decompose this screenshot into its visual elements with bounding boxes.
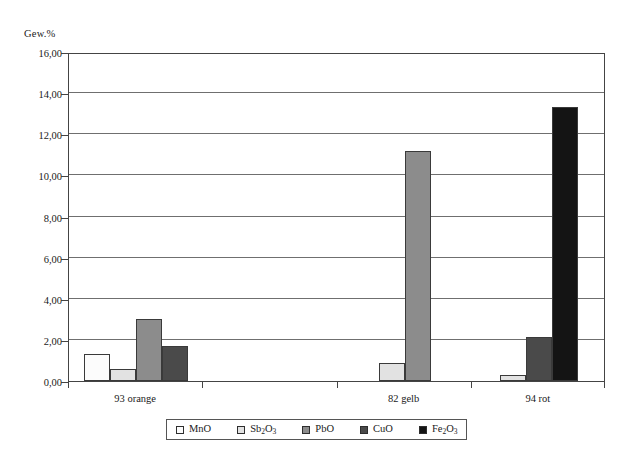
legend-label: CuO: [373, 424, 393, 435]
x-tick-mark: [202, 382, 203, 388]
y-tick-mark: [61, 53, 68, 54]
legend-item-mno: MnO: [176, 424, 211, 435]
y-tick-label: 0,00: [18, 377, 62, 388]
legend-item-cuo: CuO: [360, 424, 393, 435]
bar-sb2o3-2: [379, 363, 405, 382]
legend-item-fe2o3: Fe2O3: [419, 424, 458, 435]
x-tick-mark: [68, 382, 69, 388]
y-tick-mark: [61, 300, 68, 301]
x-category-label: 94 rot: [525, 393, 550, 404]
y-tick-label: 8,00: [18, 212, 62, 223]
bar-chart-figure: Gew.% 0,002,004,006,008,0010,0012,0014,0…: [0, 0, 623, 474]
x-category-label: 93 orange: [114, 393, 156, 404]
legend-label: PbO: [315, 424, 334, 435]
y-tick-mark: [61, 341, 68, 342]
y-tick-label: 2,00: [18, 335, 62, 346]
plot-area: [68, 53, 605, 382]
bar-cuo-0: [162, 346, 188, 381]
legend-swatch-icon: [237, 426, 245, 434]
legend-item-sb2o3: Sb2O3: [237, 424, 276, 435]
bar-pbo-0: [136, 319, 162, 381]
legend-label: Fe2O3: [432, 424, 458, 435]
y-tick-mark: [61, 382, 68, 383]
legend-label: MnO: [189, 424, 211, 435]
bar-mno-0: [84, 354, 110, 381]
y-tick-label: 16,00: [18, 48, 62, 59]
legend-swatch-icon: [302, 426, 310, 434]
x-tick-mark: [604, 382, 605, 388]
bar-pbo-2: [405, 151, 431, 381]
legend-item-pbo: PbO: [302, 424, 334, 435]
y-tick-label: 12,00: [18, 130, 62, 141]
y-tick-label: 14,00: [18, 89, 62, 100]
bars-layer: [69, 54, 604, 381]
x-category-label: 82 gelb: [388, 393, 419, 404]
y-tick-mark: [61, 94, 68, 95]
y-tick-label: 10,00: [18, 171, 62, 182]
y-tick-mark: [61, 259, 68, 260]
x-tick-mark: [471, 382, 472, 388]
bar-sb2o3-0: [110, 369, 136, 381]
y-tick-label: 6,00: [18, 253, 62, 264]
y-tick-label: 4,00: [18, 294, 62, 305]
bar-cuo-3: [526, 337, 552, 381]
y-tick-mark: [61, 176, 68, 177]
legend-swatch-icon: [419, 426, 427, 434]
y-tick-mark: [61, 218, 68, 219]
legend-swatch-icon: [176, 426, 184, 434]
legend-swatch-icon: [360, 426, 368, 434]
bar-fe2o3-3: [552, 107, 578, 382]
chart-legend: MnOSb2O3PbOCuOFe2O3: [166, 419, 467, 440]
bar-sb2o3-3: [500, 375, 526, 381]
y-tick-mark: [61, 135, 68, 136]
legend-label: Sb2O3: [250, 424, 276, 435]
x-axis: 93 orange82 gelb94 rot: [68, 382, 605, 414]
x-tick-mark: [337, 382, 338, 388]
